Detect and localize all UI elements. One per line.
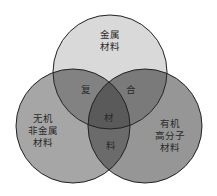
- label-organic-line1: 有机: [160, 118, 180, 129]
- label-inorganic-line2: 非金属: [28, 125, 58, 136]
- label-metal-line1: 金属: [100, 29, 120, 40]
- venn-diagram: 金属 材料 无机 非金属 材料 有机 高分子 材料 复 合 材 料: [0, 0, 217, 196]
- label-organic-line3: 材料: [160, 142, 180, 153]
- label-organic-line2: 高分子: [155, 130, 185, 141]
- label-intersection-inorganic-organic: 料: [106, 140, 116, 151]
- label-metal-line2: 材料: [100, 41, 120, 52]
- label-inorganic-line1: 无机: [33, 113, 53, 124]
- label-intersection-metal-inorganic: 复: [81, 84, 91, 95]
- label-inorganic-line3: 材料: [33, 137, 53, 148]
- label-intersection-center: 材: [104, 112, 114, 123]
- label-intersection-metal-organic: 合: [126, 84, 136, 95]
